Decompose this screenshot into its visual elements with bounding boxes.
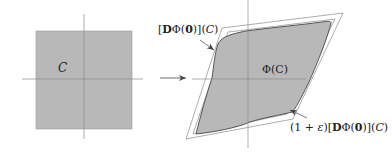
phi-symbol: Φ( <box>172 23 185 36</box>
square-label: C <box>58 62 67 74</box>
left-panel <box>22 14 143 139</box>
derivative-d: D <box>162 23 172 36</box>
derivative-d: D <box>332 121 342 134</box>
set-c: C <box>375 121 383 134</box>
zero-vector: 0 <box>355 121 363 134</box>
phi-c-text: Φ(C) <box>262 63 288 76</box>
outer-parallelogram-label: (1 + ε)[DΦ(0)](C) <box>290 122 388 133</box>
one-plus: (1 + <box>290 121 318 134</box>
inner-label-pointer <box>200 40 214 50</box>
bracket-close: )]( <box>363 121 376 134</box>
phi-c-label: Φ(C) <box>262 64 288 75</box>
phi-c-region <box>196 21 331 134</box>
bracket-open: )[ <box>323 121 332 134</box>
paren-close: ) <box>214 23 218 36</box>
paren-close: ) <box>384 121 388 134</box>
inner-parallelogram-label: [DΦ(0)](C) <box>158 24 218 35</box>
set-c: C <box>206 23 214 36</box>
phi-symbol: Φ( <box>342 121 355 134</box>
bracket-close: )]( <box>193 23 206 36</box>
zero-vector: 0 <box>185 23 193 36</box>
figure: C Φ(C) [DΦ(0)](C) (1 + ε)[DΦ(0)](C) <box>0 0 392 165</box>
outer-label-pointer <box>290 110 307 118</box>
